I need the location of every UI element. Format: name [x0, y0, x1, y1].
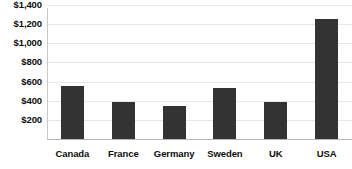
- x-axis-labels: CanadaFranceGermanySwedenUKUSA: [47, 142, 352, 169]
- x-axis-line: [47, 139, 352, 140]
- y-axis-tick-label: $1,200: [0, 19, 42, 29]
- bar: [264, 102, 287, 139]
- bars-layer: [47, 0, 352, 140]
- x-axis-tick-label: Germany: [154, 148, 195, 159]
- y-axis-labels: $200$400$600$800$1,000$1,200$1,400: [0, 0, 42, 169]
- x-axis-tick-label: Canada: [56, 148, 90, 159]
- x-axis-tick-label: USA: [317, 148, 337, 159]
- bar: [315, 19, 338, 139]
- bar: [61, 86, 84, 139]
- bar: [213, 88, 236, 139]
- x-axis-tick-label: Sweden: [207, 148, 242, 159]
- plot-area: [47, 0, 352, 140]
- y-axis-tick-label: $1,400: [0, 0, 42, 10]
- bar-chart: $200$400$600$800$1,000$1,200$1,400 Canad…: [0, 0, 352, 169]
- x-axis-tick-label: France: [108, 148, 139, 159]
- bar: [163, 106, 186, 139]
- bar: [112, 102, 135, 139]
- y-axis-tick-label: $800: [0, 57, 42, 67]
- x-axis-tick-label: UK: [269, 148, 283, 159]
- y-axis-tick-label: $200: [0, 115, 42, 125]
- y-axis-tick-label: $400: [0, 96, 42, 106]
- y-axis-tick-label: $1,000: [0, 38, 42, 48]
- y-axis-tick-label: $600: [0, 77, 42, 87]
